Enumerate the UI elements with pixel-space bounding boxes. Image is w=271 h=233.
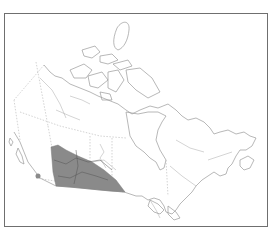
arctic-archipelago xyxy=(70,22,160,100)
hudson-bay xyxy=(126,112,166,170)
mainland-coastline xyxy=(44,65,256,214)
rivers xyxy=(40,78,232,218)
occurrence-dot xyxy=(36,174,41,179)
canada-map xyxy=(0,0,271,233)
